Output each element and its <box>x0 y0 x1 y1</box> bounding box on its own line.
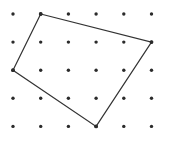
grid-dot <box>39 40 42 43</box>
grid-dot <box>150 97 153 100</box>
vertex-dot-bottom <box>94 125 98 129</box>
grid-dot <box>11 12 14 15</box>
figure-background <box>0 0 169 149</box>
grid-dot <box>67 40 70 43</box>
dot-grid-figure <box>0 0 169 149</box>
grid-dot <box>11 97 14 100</box>
grid-dot <box>94 12 97 15</box>
grid-dot <box>67 12 70 15</box>
vertex-dot-top <box>39 12 43 16</box>
grid-dot <box>122 40 125 43</box>
grid-dot <box>67 69 70 72</box>
grid-dot <box>150 12 153 15</box>
grid-dot <box>94 69 97 72</box>
grid-dot <box>39 97 42 100</box>
grid-dot <box>94 97 97 100</box>
grid-dot <box>67 97 70 100</box>
grid-dot <box>122 125 125 128</box>
grid-dot <box>150 69 153 72</box>
grid-dot <box>150 125 153 128</box>
vertex-dot-left <box>11 68 15 72</box>
grid-dot <box>67 125 70 128</box>
grid-dot <box>39 125 42 128</box>
grid-dot <box>39 69 42 72</box>
grid-dot <box>122 97 125 100</box>
grid-dot <box>11 40 14 43</box>
grid-dot <box>11 125 14 128</box>
grid-dot <box>122 12 125 15</box>
figure-container <box>0 0 169 149</box>
grid-dot <box>94 40 97 43</box>
vertex-dot-right <box>150 40 154 44</box>
grid-dot <box>122 69 125 72</box>
